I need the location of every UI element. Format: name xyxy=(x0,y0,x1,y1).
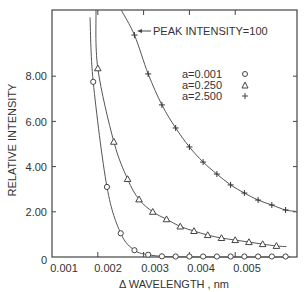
circle-marker xyxy=(256,254,261,259)
circle-marker xyxy=(104,184,109,189)
circle-marker xyxy=(118,231,123,236)
curve-circle xyxy=(90,17,290,257)
circle-marker xyxy=(159,254,164,259)
circle-marker xyxy=(228,254,233,259)
circle-marker xyxy=(173,254,178,259)
plus-marker xyxy=(173,125,179,131)
legend-triangle-icon xyxy=(242,82,248,88)
plus-marker xyxy=(159,102,165,108)
y-tick-label: 0 xyxy=(41,254,47,266)
plot-frame xyxy=(52,10,297,257)
curve-plus xyxy=(121,10,295,211)
legend-circle-icon xyxy=(243,72,248,77)
triangle-marker xyxy=(95,65,102,71)
y-tick-label: 4.00 xyxy=(26,161,47,173)
chart: 8.00 6.00 4.00 2.00 0 0.001 0.002 0.003 … xyxy=(0,0,306,292)
legend-label-a2500: a=2.500 xyxy=(182,90,222,102)
plus-marker xyxy=(255,197,261,203)
circle-marker xyxy=(283,254,288,259)
x-tick-label: 0.001 xyxy=(50,262,78,274)
circle-marker xyxy=(201,254,206,259)
y-tick-label: 6.00 xyxy=(26,116,47,128)
circle-marker xyxy=(214,254,219,259)
circle-marker xyxy=(269,254,274,259)
y-tick-label: 8.00 xyxy=(26,70,47,82)
triangle-marker xyxy=(163,216,170,222)
annotation-peak-intensity: PEAK INTENSITY=100 xyxy=(153,25,268,37)
y-tick-label: 2.00 xyxy=(26,206,47,218)
circle-marker xyxy=(132,248,137,253)
circle-marker xyxy=(146,252,151,257)
plus-marker xyxy=(131,32,137,38)
x-tick-label: 0.005 xyxy=(233,262,261,274)
curve-triangle xyxy=(96,10,287,247)
circle-marker xyxy=(242,254,247,259)
x-tick-label: 0.004 xyxy=(187,262,215,274)
legend-plus-icon xyxy=(242,93,248,99)
plus-marker xyxy=(241,190,247,196)
triangle-marker xyxy=(177,223,184,229)
triangle-marker xyxy=(111,138,118,144)
plus-marker xyxy=(145,71,151,77)
x-tick-label: 0.003 xyxy=(141,262,169,274)
plus-marker xyxy=(269,202,275,208)
triangle-marker xyxy=(149,209,156,215)
curves xyxy=(90,10,296,257)
axis-ticks xyxy=(52,10,297,257)
triangle-marker xyxy=(124,176,131,182)
circle-marker xyxy=(187,254,192,259)
annotation-arrow-head xyxy=(137,29,142,33)
x-tick-label: 0.002 xyxy=(94,262,122,274)
markers xyxy=(91,32,289,259)
plus-marker xyxy=(283,207,289,213)
y-axis-title: RELATIVE INTENSITY xyxy=(6,83,18,197)
x-axis-title: Δ WAVELENGTH , nm xyxy=(119,278,229,290)
circle-marker xyxy=(91,79,96,84)
